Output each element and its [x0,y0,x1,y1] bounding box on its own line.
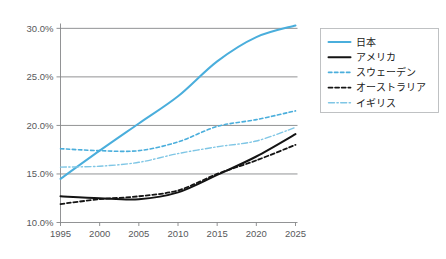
chart-legend: 日本アメリカスウェーデンオーストラリアイギリス [321,29,439,113]
x-axis-tick-label: 2025 [285,228,306,239]
y-axis-tick-label: 30.0% [27,23,54,34]
legend-label-1[interactable]: 日本 [356,36,376,48]
x-axis-tick-label: 2015 [207,228,228,239]
chart-container: 10.0%15.0%20.0%25.0%30.0% 19952000200520… [0,0,446,259]
data-series-group [61,25,296,204]
y-axis-tick-label: 25.0% [27,71,54,82]
x-axis-labels: 1995200020052010201520202025 [50,228,306,239]
x-axis-tick-label: 1995 [50,228,71,239]
series-line-5 [61,127,296,167]
x-axis-tick-label: 2005 [128,228,149,239]
y-axis-tick-label: 10.0% [27,217,54,228]
y-axis-tick-label: 20.0% [27,120,54,131]
axis-tickmarks [57,28,296,226]
legend-label-5[interactable]: イギリス [356,98,396,109]
legend-label-3[interactable]: スウェーデン [356,66,416,78]
y-axis-labels: 10.0%15.0%20.0%25.0%30.0% [27,23,54,228]
x-axis-tick-label: 2010 [167,228,188,239]
y-axis-tick-label: 15.0% [27,168,54,179]
series-line-3 [61,111,296,151]
series-line-1 [61,25,296,178]
gridlines [61,28,298,222]
line-chart: 10.0%15.0%20.0%25.0%30.0% 19952000200520… [0,0,446,259]
x-axis-tick-label: 2000 [89,228,110,239]
legend-label-2[interactable]: アメリカ [356,52,396,63]
x-axis-tick-label: 2020 [246,228,267,239]
legend-label-4[interactable]: オーストラリア [356,82,426,93]
